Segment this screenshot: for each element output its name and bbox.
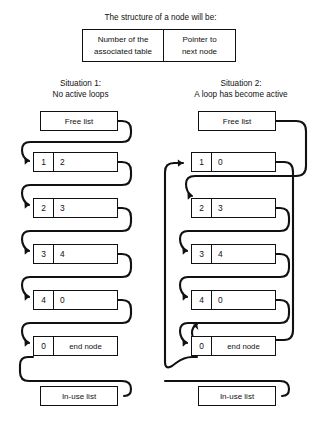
situation-2-node-3-pointer: 4 [212,245,275,263]
situation-2-in-use-list-label: In-use list [199,387,275,405]
situation-1-node-2-table: 2 [34,199,54,217]
situation-2-node-5-pointer: end node [212,337,275,355]
situation-1-node-1: 1 2 [33,152,118,172]
situation-1-node-3-table: 3 [34,245,54,263]
node-structure-left-line2: associated table [94,46,152,58]
node-structure-right-cell: Pointer to next node [164,30,235,61]
node-structure-left-line1: Number of the [98,34,149,46]
node-structure-box: Number of the associated table Pointer t… [82,29,236,62]
situation-1-subtitle: No active loops [8,89,153,100]
situation-2-caption: Situation 2: A loop has become active [165,78,317,100]
situation-1-free-list-box: Free list [40,111,118,131]
situation-1-caption: Situation 1: No active loops [8,78,153,100]
situation-2-node-2-table: 2 [192,199,212,217]
situation-1-node-3: 3 4 [33,244,118,264]
situation-1-node-4-pointer: 0 [54,291,117,309]
situation-2-free-list-label: Free list [199,112,275,130]
node-structure-right-line2: next node [182,46,217,58]
node-structure-left-cell: Number of the associated table [83,30,164,61]
situation-1-in-use-list-label: In-use list [41,387,117,405]
diagram-canvas: The structure of a node will be: Number … [0,0,321,426]
arrowhead-s2-node1 [178,159,183,166]
situation-2-node-4-table: 4 [192,291,212,309]
situation-1-node-5-pointer: end node [54,337,117,355]
situation-1-node-1-table: 1 [34,153,54,171]
node-structure-right-line1: Pointer to [182,34,216,46]
situation-2-free-list-box: Free list [198,111,276,131]
situation-2-node-2: 2 3 [191,198,276,218]
situation-2-node-2-pointer: 3 [212,199,275,217]
situation-2-node-5: 0 end node [191,336,276,356]
situation-2-in-use-list-box: In-use list [198,386,276,406]
situation-1-node-4: 4 0 [33,290,118,310]
situation-2-node-3-table: 3 [192,245,212,263]
situation-2-node-1-table: 1 [192,153,212,171]
situation-1-node-5-table: 0 [34,337,54,355]
situation-2-title: Situation 2: [165,78,317,89]
situation-1-node-5: 0 end node [33,336,118,356]
situation-1-node-2-pointer: 3 [54,199,117,217]
situation-1-node-3-pointer: 4 [54,245,117,263]
situation-1-node-4-table: 4 [34,291,54,309]
situation-2-node-1-pointer: 0 [212,153,275,171]
situation-1-node-2: 2 3 [33,198,118,218]
situation-2-node-4-pointer: 0 [212,291,275,309]
situation-1-free-list-label: Free list [41,112,117,130]
intro-caption-text: The structure of a node will be: [105,13,217,22]
situation-1-in-use-list-box: In-use list [40,386,118,406]
situation-2-node-5-table: 0 [192,337,212,355]
situation-1-title: Situation 1: [8,78,153,89]
situation-2-node-1: 1 0 [191,152,276,172]
situation-2-node-3: 3 4 [191,244,276,264]
intro-caption: The structure of a node will be: [0,12,321,23]
situation-1-node-1-pointer: 2 [54,153,117,171]
situation-2-subtitle: A loop has become active [165,89,317,100]
situation-2-node-4: 4 0 [191,290,276,310]
